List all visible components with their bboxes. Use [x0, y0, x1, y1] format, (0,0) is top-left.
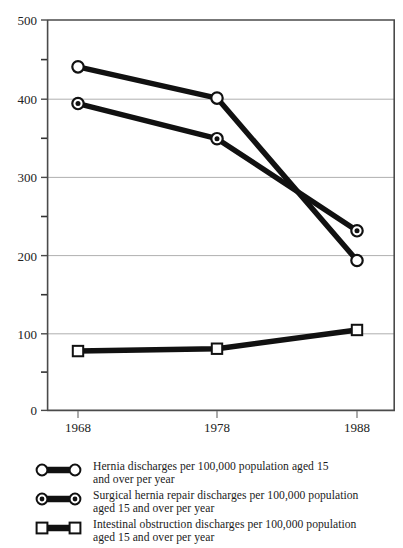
legend-marker-open-circle [31, 463, 86, 477]
y-tick-label-300: 300 [18, 170, 38, 185]
y-tick-label-100: 100 [18, 327, 38, 342]
legend-label-intestinal-obstruction: Intestinal obstruction discharges per 10… [86, 519, 401, 544]
x-axis-ticks [78, 411, 357, 418]
y-axis-major-ticks [41, 20, 47, 410]
data-point-marker [352, 325, 362, 335]
y-tick-label-0: 0 [31, 403, 38, 418]
legend-marker-open-square [31, 521, 86, 535]
data-point-marker-dot [355, 228, 360, 233]
chart-legend: Hernia discharges per 100,000 population… [31, 461, 401, 548]
y-tick-label-400: 400 [18, 92, 38, 107]
x-tick-label-1968: 1968 [65, 420, 91, 435]
data-point-marker [351, 255, 362, 266]
legend-item-hernia: Hernia discharges per 100,000 population… [31, 461, 401, 486]
x-tick-label-1988: 1988 [344, 420, 370, 435]
data-point-marker [73, 346, 83, 356]
legend-label-hernia: Hernia discharges per 100,000 population… [86, 461, 401, 486]
legend-label-surgical-line2: aged 15 and over per year [93, 503, 401, 516]
data-point-marker [72, 61, 83, 72]
legend-label-surgical-hernia-repair: Surgical hernia repair discharges per 10… [86, 490, 401, 515]
line-chart-plot: 500 400 300 200 100 0 1968 1978 1988 [0, 0, 403, 455]
legend-marker-dot-circle [31, 492, 86, 506]
legend-label-intestinal-line2: aged 15 and over per year [93, 532, 401, 545]
y-tick-label-500: 500 [18, 13, 38, 28]
legend-label-hernia-line2: and over per year [93, 474, 401, 487]
x-tick-label-1978: 1978 [204, 420, 230, 435]
data-point-marker [212, 344, 222, 354]
data-point-marker-dot [76, 101, 81, 106]
chart-figure: 500 400 300 200 100 0 1968 1978 1988 [0, 0, 403, 548]
legend-item-surgical-hernia-repair: Surgical hernia repair discharges per 10… [31, 490, 401, 515]
data-point-marker [211, 92, 222, 103]
y-axis-minor-ticks [41, 60, 47, 373]
legend-item-intestinal-obstruction: Intestinal obstruction discharges per 10… [31, 519, 401, 544]
legend-label-surgical-line1: Surgical hernia repair discharges per 10… [93, 490, 401, 503]
data-point-marker-dot [215, 136, 220, 141]
legend-label-hernia-line1: Hernia discharges per 100,000 population… [93, 461, 401, 474]
y-tick-label-200: 200 [18, 249, 38, 264]
